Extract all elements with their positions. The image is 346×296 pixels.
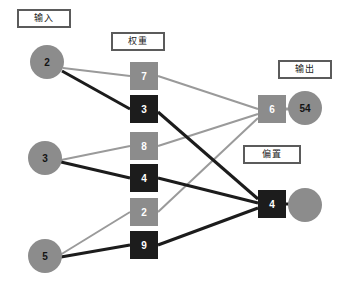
weight-9: 9 <box>130 231 158 259</box>
connection-line <box>62 71 130 109</box>
weight-7: 7 <box>130 62 158 90</box>
connection-line <box>158 208 258 245</box>
label-output: 输出 <box>278 60 332 79</box>
label-input: 输入 <box>17 9 71 28</box>
label-bias: 偏置 <box>243 145 301 164</box>
label-weight: 权重 <box>111 32 165 51</box>
weight-2: 2 <box>130 198 158 226</box>
output-2 <box>288 188 322 222</box>
connection-line <box>158 114 258 146</box>
input-2: 3 <box>28 141 62 175</box>
weight-8: 8 <box>130 132 158 160</box>
neural-network-diagram: 输入权重输出偏置 2357384296454 <box>0 0 346 296</box>
bias-4: 4 <box>258 190 286 218</box>
output-1: 54 <box>288 91 322 125</box>
connection-line <box>61 146 130 160</box>
connection-line <box>61 245 130 257</box>
weight-4: 4 <box>130 164 158 192</box>
connection-line <box>61 162 130 178</box>
bias-6: 6 <box>258 95 286 123</box>
input-1: 2 <box>30 45 64 79</box>
weight-3: 3 <box>130 95 158 123</box>
connection-line <box>158 76 258 109</box>
connection-line <box>63 68 130 76</box>
input-3: 5 <box>28 239 62 273</box>
connection-line <box>60 212 130 255</box>
